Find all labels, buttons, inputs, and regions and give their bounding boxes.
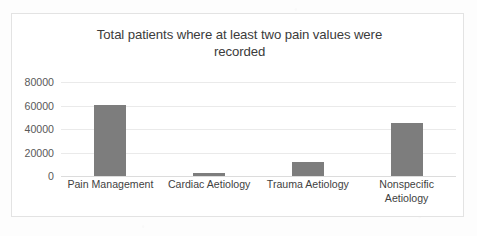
chart-title-line-1: Total patients where at least two pain v…	[97, 27, 382, 42]
bar-cardiac-aetiology[interactable]	[193, 173, 225, 176]
x-axis-labels: Pain ManagementCardiac AetiologyTrauma A…	[61, 178, 456, 214]
chart-frame[interactable]: Total patients where at least two pain v…	[11, 13, 464, 217]
chart-screenshot: Total patients where at least two pain v…	[0, 0, 477, 236]
x-axis-label-trauma-aetiology: Trauma Aetiology	[259, 178, 358, 192]
x-axis-label-cardiac-aetiology: Cardiac Aetiology	[160, 178, 259, 192]
bar-trauma-aetiology[interactable]	[292, 162, 324, 176]
bar-nonspecific-aetiology[interactable]	[391, 123, 423, 176]
gridline-0	[61, 176, 456, 177]
y-axis-tick-label: 40000	[25, 123, 54, 135]
y-axis-tick-label: 0	[48, 170, 54, 182]
bar-series	[61, 82, 456, 176]
y-axis-tick-label: 80000	[25, 76, 54, 88]
x-axis-label-pain-management: Pain Management	[61, 178, 160, 192]
chart-title-line-2: recorded	[214, 44, 265, 59]
y-axis-tick-label: 20000	[25, 147, 54, 159]
chart-title: Total patients where at least two pain v…	[52, 26, 427, 60]
x-axis-label-nonspecific-aetiology: Nonspecific Aetiology	[357, 178, 456, 205]
y-axis-tick-label: 60000	[25, 100, 54, 112]
bar-pain-management[interactable]	[94, 105, 126, 176]
plot-area: 800006000040000200000	[61, 82, 456, 176]
